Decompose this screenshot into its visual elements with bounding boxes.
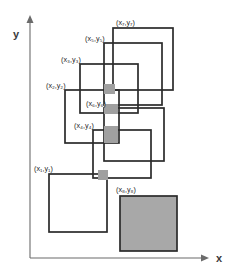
point-label-p5: (x₅,y₅) — [85, 34, 105, 43]
point-label-p8: (x₈,y₈) — [116, 185, 136, 194]
point-label-p4: (x₄,y₄) — [74, 121, 94, 130]
point-label-p6: (x₆,y₆) — [86, 99, 106, 108]
point-label-p2: (x₂,y₂) — [46, 81, 66, 90]
y-axis — [27, 15, 34, 258]
rectangle-r7 — [113, 28, 173, 90]
rectangle-r1 — [49, 174, 107, 232]
rectangle-r8-shaded — [120, 196, 177, 251]
overlap-cell-o2 — [104, 104, 118, 114]
overlap-cell-o4 — [98, 170, 108, 180]
point-label-p1: (x₁,y₁) — [34, 164, 53, 173]
overlap-cell-o1 — [104, 84, 115, 94]
diagram-canvas: y x (x₇,y₇) (x₅,y₅) (x₃,y₃) (x₂,y₂) (x₆,… — [0, 0, 232, 275]
overlap-cell-o3 — [104, 126, 118, 143]
point-label-p7: (x₇,y₇) — [116, 18, 135, 27]
y-axis-arrowhead — [27, 15, 34, 23]
x-axis — [30, 255, 209, 262]
point-label-p3: (x₃,y₃) — [61, 55, 81, 64]
rectangle-overlap-figure: y x (x₇,y₇) (x₅,y₅) (x₃,y₃) (x₂,y₂) (x₆,… — [0, 0, 232, 275]
x-axis-arrowhead — [201, 255, 209, 262]
y-axis-label: y — [13, 28, 20, 40]
x-axis-label: x — [216, 252, 223, 264]
